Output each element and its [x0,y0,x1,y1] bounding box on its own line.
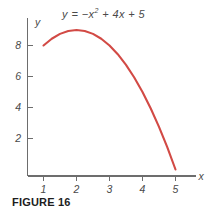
parabola-curve [44,30,176,170]
x-tick-label-1: 1 [41,183,47,195]
y-tick-label-4: 4 [15,101,21,113]
figure-container: 8 6 4 2 1 2 3 4 5 y x y = −x2 + 4x + 5 F… [0,0,216,215]
y-tick-label-2: 2 [14,132,21,144]
figure-caption: FIGURE 16 [12,196,71,208]
plot-svg: 8 6 4 2 1 2 3 4 5 y x [0,0,216,215]
y-tick-label-8: 8 [15,39,21,51]
x-axis-label: x [197,170,204,182]
equation-label: y = −x2 + 4x + 5 [62,8,145,20]
equation-operator: = − [71,8,88,20]
equation-rest: + 4x + 5 [102,8,145,20]
y-axis-label: y [34,16,41,28]
equation-exponent: 2 [94,7,98,14]
x-tick-label-3: 3 [107,183,113,195]
equation-lhs: y [62,8,68,20]
x-tick-label-4: 4 [140,183,146,195]
y-tick-label-6: 6 [15,70,21,82]
x-tick-label-2: 2 [73,183,80,195]
x-tick-label-5: 5 [173,183,179,195]
